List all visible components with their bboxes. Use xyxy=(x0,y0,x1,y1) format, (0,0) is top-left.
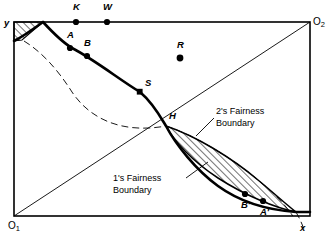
lens-shape xyxy=(166,126,296,212)
y-axis-label: y xyxy=(4,18,9,29)
origin-label-O1: O1 xyxy=(8,220,20,231)
annotation-fairness-1-line2: Boundary xyxy=(113,184,161,196)
point-marker-K xyxy=(73,19,79,25)
origin-label-O2-sub: 2 xyxy=(321,20,325,29)
point-marker-A xyxy=(67,45,73,51)
lens-hatched-region xyxy=(166,126,296,212)
point-label-B: B xyxy=(84,38,91,49)
point-label-B-prime: B' xyxy=(241,200,250,211)
annotation-fairness-1: 1's Fairness Boundary xyxy=(113,172,161,196)
annotation-fairness-2: 2's Fairness Boundary xyxy=(216,105,264,129)
annotation-fairness-2-line2: Boundary xyxy=(216,117,264,129)
point-marker-B-prime xyxy=(242,191,248,197)
annotation-fairness-2-line1: 2's Fairness xyxy=(216,105,264,117)
point-marker-A-prime xyxy=(260,198,266,204)
origin-label-O2: O2 xyxy=(313,16,325,27)
origin-label-O1-sub: 1 xyxy=(16,224,20,233)
contract-curve xyxy=(14,22,310,212)
x-axis-label: x xyxy=(300,223,305,234)
point-label-S: S xyxy=(145,78,151,89)
point-label-K: K xyxy=(73,2,80,13)
point-label-A-prime: A' xyxy=(260,207,269,218)
edgeworth-box-figure: K W A B R S H B' A' y x O1 O2 2's Fairne… xyxy=(0,0,331,242)
point-label-R: R xyxy=(177,40,184,51)
point-marker-W xyxy=(104,19,110,25)
diagram-canvas xyxy=(0,0,331,242)
point-marker-R xyxy=(177,55,184,62)
origin-label-O1-text: O xyxy=(8,220,16,231)
point-marker-B xyxy=(84,53,90,59)
point-label-H: H xyxy=(169,111,176,122)
point-marker-S xyxy=(137,89,143,95)
point-label-W: W xyxy=(103,2,112,13)
annotation-fairness-1-line1: 1's Fairness xyxy=(113,172,161,184)
leader-line-fairness-2 xyxy=(196,118,214,136)
point-label-A: A xyxy=(67,30,74,41)
origin-label-O2-text: O xyxy=(313,16,321,27)
